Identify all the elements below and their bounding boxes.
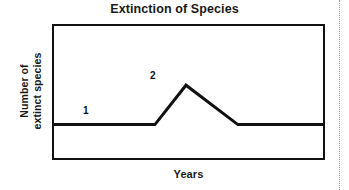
plot-frame [53,25,324,159]
y-axis-title-line-1: Number of [18,53,31,130]
chart-title: Extinction of Species [0,2,349,17]
chart-figure: Extinction of Species Number of extinct … [0,0,349,190]
plot-svg [52,24,325,160]
data-point-label-1: 1 [83,106,89,116]
page-edge-dotted-rule-icon [339,0,340,190]
y-axis-title-line-2: extinct species [30,53,43,130]
y-axis-title: Number of extinct species [14,32,46,150]
plot-area [52,24,325,160]
y-axis-title-text: Number of extinct species [18,53,43,130]
x-axis-title: Years [52,168,325,180]
data-point-label-2: 2 [150,71,156,81]
